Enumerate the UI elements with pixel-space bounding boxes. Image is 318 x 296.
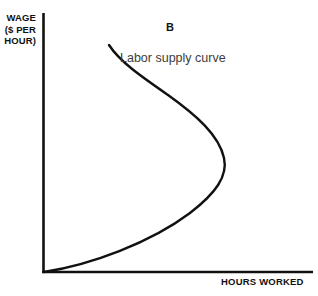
y-axis-label-line3: HOUR)	[2, 35, 36, 47]
y-axis-label-line2: ($ PER	[2, 24, 36, 36]
labor-supply-curve-path	[44, 45, 225, 272]
curve-annotation-label: Labor supply curve	[120, 51, 226, 65]
y-axis-label-line1: WAGE	[2, 12, 36, 24]
y-axis-label: WAGE ($ PER HOUR)	[2, 12, 36, 47]
chart-canvas	[0, 0, 318, 296]
panel-letter: B	[166, 21, 174, 33]
x-axis-label: HOURS WORKED	[221, 276, 304, 287]
figure-panel-b: WAGE ($ PER HOUR) HOURS WORKED B Labor s…	[0, 0, 318, 296]
